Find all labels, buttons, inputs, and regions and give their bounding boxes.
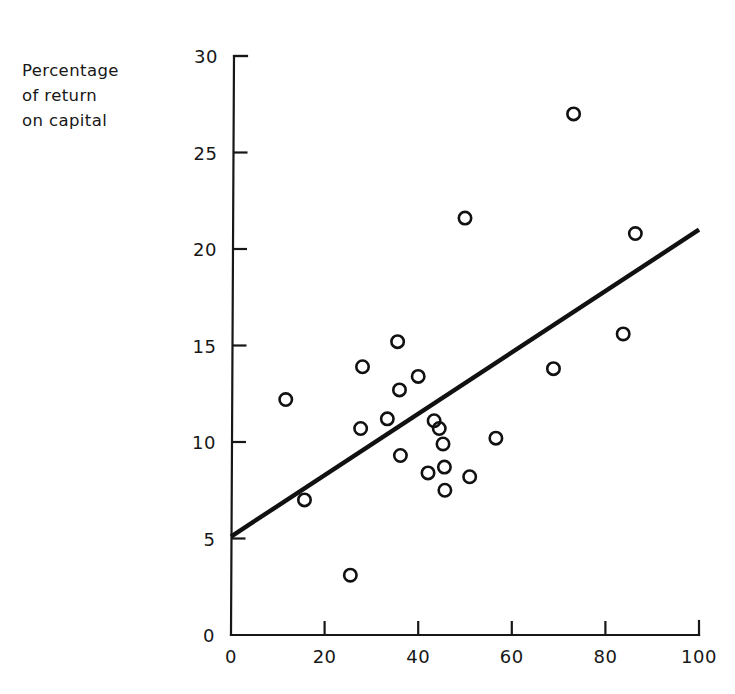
data-point	[463, 471, 475, 483]
y-tick-label: 25	[194, 143, 218, 164]
data-point	[438, 461, 450, 473]
x-tick-label: 40	[406, 646, 430, 667]
x-tick-label: 20	[313, 646, 337, 667]
data-point	[422, 467, 434, 479]
y-tick-group: 051015202530	[192, 46, 248, 646]
data-point	[394, 449, 406, 461]
data-point	[459, 212, 471, 224]
data-points-group	[280, 108, 642, 582]
data-point	[567, 108, 579, 120]
scatter-plot-figure: Percentageof returnon capital 0510152025…	[0, 0, 735, 694]
y-tick-label: 30	[194, 46, 218, 67]
y-tick-label: 20	[193, 239, 217, 260]
x-tick-label: 0	[225, 646, 237, 667]
data-point	[393, 384, 405, 396]
x-tick-label: 100	[681, 646, 717, 667]
data-point	[381, 413, 393, 425]
data-point	[437, 438, 449, 450]
regression-line	[231, 230, 699, 537]
data-point	[490, 432, 502, 444]
plot-canvas: 051015202530 020406080100	[0, 0, 735, 694]
data-point	[547, 362, 559, 374]
data-point	[356, 361, 368, 373]
y-tick-label: 5	[204, 529, 216, 550]
data-point	[344, 569, 356, 581]
x-tick-label: 60	[500, 646, 524, 667]
y-tick-label: 0	[203, 625, 215, 646]
axis-group	[231, 56, 699, 635]
data-point	[280, 393, 292, 405]
data-point	[354, 422, 366, 434]
data-point	[617, 328, 629, 340]
data-point	[439, 484, 451, 496]
data-point	[629, 227, 641, 239]
y-tick-label: 15	[193, 336, 217, 357]
x-tick-group: 020406080100	[225, 621, 717, 667]
y-tick-label: 10	[192, 432, 216, 453]
x-tick-label: 80	[593, 646, 617, 667]
regression-line-group	[231, 230, 699, 537]
data-point	[298, 494, 310, 506]
data-point	[391, 335, 403, 347]
data-point	[412, 370, 424, 382]
